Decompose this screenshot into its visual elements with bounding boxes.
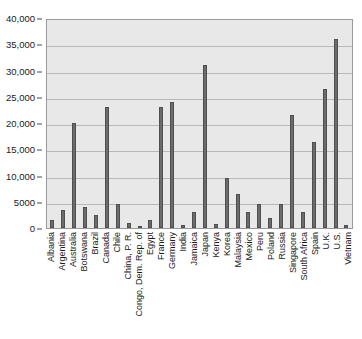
x-tick-label: Malaysia [233,232,242,268]
x-tick-slot: Singapore [287,230,298,335]
x-tick-slot: India [178,230,189,335]
x-tick-label: France [157,232,166,260]
bar-slot [112,20,123,228]
y-tick-label: 10,000 [6,172,35,182]
bar[interactable] [83,207,87,228]
bar[interactable] [127,223,131,228]
y-tick-label: 40,000 [6,14,35,24]
bar-slot [221,20,232,228]
bar[interactable] [50,220,54,228]
x-tick-slot: Germany [167,230,178,335]
bar-slot [276,20,287,228]
y-tick-label: 35,000 [6,40,35,50]
x-tick-label: India [179,232,188,252]
x-tick-slot: U.K. [320,230,331,335]
bar[interactable] [236,194,240,228]
bar-slot [308,20,319,228]
x-tick-label: Brazil [91,232,100,255]
x-tick-slot: Australia [68,230,79,335]
x-tick-label: Japan [201,232,210,257]
x-tick-label: South Africa [299,232,308,281]
x-tick-slot: Albania [46,230,57,335]
plot-area [46,19,353,229]
bar[interactable] [290,115,294,228]
x-tick-label: Vietnam [343,232,352,265]
x-tick-label: Australia [69,232,78,267]
x-tick-slot: France [156,230,167,335]
x-tick-slot: Vietnam [342,230,353,335]
x-tick-label: Poland [266,232,275,260]
bar-slot [69,20,80,228]
bar[interactable] [334,39,338,228]
bar[interactable] [138,226,142,228]
bar[interactable] [301,212,305,228]
bar[interactable] [148,220,152,228]
bar[interactable] [94,215,98,228]
x-tick-label: Albania [47,232,56,262]
bar-chart: 40,00035,00030,00025,00020,00015,00010,0… [0,0,362,339]
bar[interactable] [344,225,348,228]
x-tick-slot: Jamaica [189,230,200,335]
bar-slot [91,20,102,228]
y-tick-label: 5000 [14,198,35,208]
bar-slot [58,20,69,228]
x-tick-slot: Brazil [90,230,101,335]
x-tick-label: Botswana [80,232,89,272]
bar-slot [123,20,134,228]
x-tick-slot: Canada [101,230,112,335]
x-tick-slot: Mexico [243,230,254,335]
bar-slot [178,20,189,228]
bar[interactable] [214,224,218,228]
bar[interactable] [61,210,65,228]
bar[interactable] [246,212,250,228]
bar[interactable] [116,204,120,228]
y-tick-mark [37,71,42,72]
bar-slot [199,20,210,228]
bar[interactable] [225,178,229,228]
bar[interactable] [257,204,261,228]
bar-slot [156,20,167,228]
x-tick-slot: Peru [254,230,265,335]
y-tick-mark [37,124,42,125]
bar[interactable] [268,218,272,229]
x-tick-label: Argentina [58,232,67,271]
x-tick-slot: Poland [265,230,276,335]
x-tick-slot: Chile [112,230,123,335]
y-tick-label: 25,000 [6,93,35,103]
bars-group [47,20,352,228]
bar[interactable] [170,102,174,228]
x-tick-label: Singapore [288,232,297,273]
y-tick-mark [37,45,42,46]
x-tick-label: Congo, Dem. Rep. of [135,232,144,317]
x-tick-label: U.S. [332,232,341,250]
y-tick-mark [37,150,42,151]
y-tick-mark [37,229,42,230]
bar-slot [265,20,276,228]
bar[interactable] [181,225,185,228]
bar-slot [80,20,91,228]
x-tick-slot: Argentina [57,230,68,335]
bar[interactable] [323,89,327,228]
y-tick-mark [37,176,42,177]
bar[interactable] [105,107,109,228]
bar-slot [134,20,145,228]
bar-slot [297,20,308,228]
bar[interactable] [72,123,76,228]
bar[interactable] [159,107,163,228]
bar[interactable] [192,212,196,228]
x-tick-slot: China, P. R. [123,230,134,335]
bar-slot [145,20,156,228]
x-tick-label: Mexico [244,232,253,261]
y-tick-mark [37,19,42,20]
x-tick-slot: Japan [200,230,211,335]
bar[interactable] [203,65,207,228]
x-axis: AlbaniaArgentinaAustraliaBotswanaBrazilC… [46,230,353,335]
bar[interactable] [312,142,316,228]
x-tick-label: Jamaica [190,232,199,266]
bar[interactable] [279,204,283,228]
bar-slot [167,20,178,228]
x-tick-label: China, P. R. [124,232,133,279]
x-tick-slot: Kenya [211,230,222,335]
bar-slot [287,20,298,228]
x-tick-label: Egypt [146,232,155,255]
